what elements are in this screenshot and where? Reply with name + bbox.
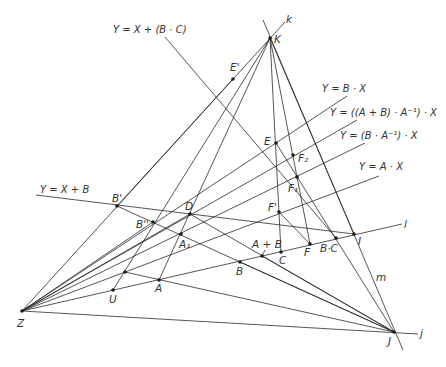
point-bp — [115, 204, 119, 208]
point-label-a: A — [154, 282, 162, 294]
eq-a-x: Y = A · X — [359, 161, 404, 172]
point-bpp — [151, 220, 155, 224]
point-b — [238, 260, 242, 264]
point-label-c: C — [279, 254, 287, 266]
point-label-bpp: B'' — [136, 218, 149, 230]
eq-b-ainv-x: Y = (B · A⁻¹) · X — [340, 130, 419, 141]
point-ep — [231, 77, 235, 81]
line-label-l: l — [404, 218, 407, 230]
construction-line — [22, 214, 190, 311]
construction-line — [270, 38, 281, 252]
point-label-f2: F₂ — [298, 152, 309, 164]
point-a1 — [179, 232, 183, 236]
point-i — [352, 232, 356, 236]
point-fp — [277, 210, 281, 214]
point-label-a1: A₁ — [178, 238, 190, 250]
point-label-b: B — [236, 265, 243, 277]
construction-line — [240, 262, 394, 332]
construction-line — [113, 38, 270, 290]
construction-line — [22, 311, 418, 334]
point-d — [188, 212, 192, 216]
point-k — [268, 36, 272, 40]
point-label-f: F — [304, 246, 311, 258]
line-label-k: k — [286, 13, 293, 25]
construction-line — [270, 38, 310, 244]
point-apb — [260, 254, 264, 258]
line-label-j: j — [418, 327, 423, 339]
line-label-m: m — [376, 271, 386, 283]
point-label-k: K — [274, 33, 282, 45]
line-labels: klmj — [286, 13, 423, 339]
point-label-apb: A + B — [251, 238, 282, 250]
point-f1 — [295, 175, 299, 179]
construction-line — [262, 256, 394, 332]
construction-line — [117, 79, 233, 206]
point-label-d: D — [185, 200, 193, 212]
point-label-u: U — [109, 293, 117, 305]
point-label-j: J — [386, 335, 391, 347]
construction-line — [22, 222, 153, 311]
point-label-bp: B' — [112, 192, 122, 204]
construction-line — [22, 224, 402, 311]
point-label-z: Z — [16, 317, 25, 329]
point-f2 — [291, 153, 295, 157]
point-j — [392, 330, 396, 334]
point-z — [20, 309, 24, 313]
point-p0 — [123, 270, 127, 274]
point-e — [274, 141, 278, 145]
eq-x-plus-bc: Y = X + (B · C) — [113, 24, 187, 35]
eq-apb-ainv-x: Y = ((A + B) · A⁻¹) · X — [330, 107, 438, 118]
point-label-bc: B·C — [320, 242, 339, 254]
point-label-e: E — [264, 135, 271, 147]
eq-b-x: Y = B · X — [322, 83, 367, 94]
point-label-f1: F₁ — [288, 182, 298, 194]
point-label-fp: F' — [268, 201, 277, 213]
projective-geometry-diagram: ZJKIE'EF₂F₁F'CFB·CA + BBAUA₁DB''B' klmj … — [0, 0, 446, 367]
point-label-ep: E' — [230, 61, 240, 73]
eq-x-plus-b: Y = X + B — [40, 184, 89, 195]
construction-line — [125, 272, 394, 332]
point-u — [111, 288, 115, 292]
line-equations: Y = X + (B · C)Y = B · XY = ((A + B) · A… — [40, 24, 438, 195]
point-bc — [334, 236, 338, 240]
point-label-i: I — [358, 235, 361, 247]
